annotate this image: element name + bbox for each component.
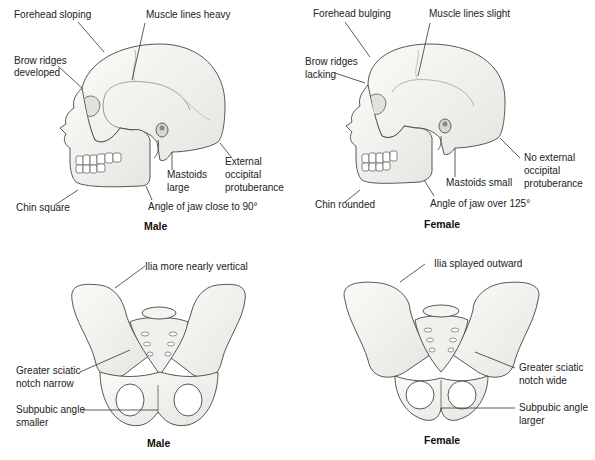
label-forehead-bulging: Forehead bulging [313, 8, 391, 21]
label-chin-square: Chin square [16, 202, 70, 215]
label-mastoids-1: Mastoids [167, 169, 207, 182]
label-angle-of-jaw: Angle of jaw over 125° [430, 198, 530, 211]
label-subpubic-2: smaller [16, 417, 48, 430]
label-sciatic-1: Greater sciatic [16, 365, 80, 378]
male-pelvis-icon [72, 284, 246, 425]
female-pelvis-icon [344, 282, 539, 420]
female-skull-icon [346, 44, 505, 183]
label-ilia-splayed: Ilia splayed outward [434, 258, 522, 271]
label-occipital-2: occipital [225, 169, 261, 182]
label-subpubic-2: larger [519, 415, 545, 428]
label-forehead-sloping: Forehead sloping [14, 9, 91, 22]
label-brow-ridges-1: Brow ridges [305, 56, 358, 69]
label-chin-rounded: Chin rounded [315, 199, 375, 212]
label-occipital-2: occipital [524, 165, 560, 178]
caption-female-skull: Female [424, 218, 460, 230]
label-angle-of-jaw: Angle of jaw close to 90° [148, 201, 258, 214]
label-muscle-lines-heavy: Muscle lines heavy [146, 9, 230, 22]
label-brow-ridges-1: Brow ridges [14, 55, 67, 68]
label-occipital-3: protuberance [524, 178, 583, 191]
label-brow-ridges-2: developed [14, 67, 60, 80]
label-mastoids-small: Mastoids small [446, 177, 512, 190]
label-muscle-lines-slight: Muscle lines slight [429, 8, 510, 21]
label-sciatic-2: notch wide [519, 375, 567, 388]
male-skull-icon [60, 44, 225, 187]
label-ilia-vertical: Ilia more nearly vertical [145, 261, 248, 274]
caption-male-skull: Male [144, 220, 167, 232]
caption-female-pelvis: Female [424, 434, 460, 446]
label-occipital-3: protuberance [225, 182, 284, 195]
label-sciatic-2: notch narrow [16, 378, 74, 391]
label-subpubic-1: Subpubic angle [16, 404, 85, 417]
label-mastoids-2: large [167, 182, 189, 195]
label-occipital-1: No external [524, 152, 575, 165]
diagram-drawings [0, 0, 595, 460]
label-subpubic-1: Subpubic angle [519, 402, 588, 415]
caption-male-pelvis: Male [147, 437, 170, 449]
label-sciatic-1: Greater sciatic [519, 362, 583, 375]
label-occipital-1: External [225, 156, 262, 169]
label-brow-ridges-2: lacking [305, 69, 336, 82]
